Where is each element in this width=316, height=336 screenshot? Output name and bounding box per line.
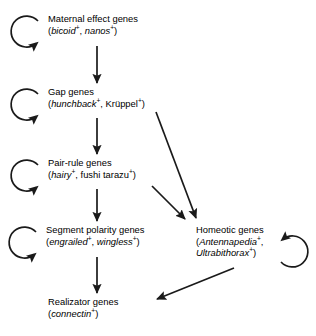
node-segment-polarity-genes: Segment polarity genes (engrailed+, wing… — [46, 224, 145, 247]
gene-antennapedia: Antennapedia — [199, 236, 257, 247]
gene-kruppel: Krüppel — [106, 98, 138, 109]
node-homeotic-genes-line1: (Antennapedia+, — [196, 236, 264, 248]
self-loop-maternal — [11, 16, 38, 47]
node-gap-genes-list: (hunchback+, Krüppel+) — [48, 98, 145, 110]
node-maternal-effect-genes: Maternal effect genes (bicoid+, nanos+) — [48, 13, 138, 36]
self-loop-pair-rule — [11, 160, 38, 191]
gene-nanos: nanos — [85, 25, 111, 36]
node-pair-rule-genes-list: (hairy+, fushi tarazu+) — [48, 169, 136, 181]
node-realizator-title: Realizator genes — [48, 296, 118, 308]
node-homeotic-title: Homeotic genes — [196, 224, 264, 236]
arrow-homeotic-to-realizator — [157, 268, 234, 299]
gene-ultrabithorax: Ultrabithorax — [196, 247, 249, 258]
diagram-canvas: Maternal effect genes (bicoid+, nanos+) … — [0, 0, 316, 336]
gene-fushi-tarazu: fushi tarazu — [81, 169, 129, 180]
node-homeotic-genes: Homeotic genes (Antennapedia+, Ultrabith… — [196, 224, 264, 259]
node-homeotic-genes-line2: Ultrabithorax+) — [196, 247, 264, 259]
node-maternal-title: Maternal effect genes — [48, 13, 138, 25]
node-segment-polarity-title: Segment polarity genes — [46, 224, 145, 236]
node-maternal-genes: (bicoid+, nanos+) — [48, 25, 138, 37]
gene-engrailed: engrailed — [49, 236, 88, 247]
node-pair-rule-genes: Pair-rule genes (hairy+, fushi tarazu+) — [48, 157, 136, 180]
self-loop-segment-polarity — [9, 227, 36, 258]
node-pair-rule-title: Pair-rule genes — [48, 157, 136, 169]
self-loop-homeotic — [281, 236, 308, 267]
gene-hunchback: hunchback — [51, 98, 96, 109]
gene-connectin: connectin — [51, 308, 91, 319]
arrow-gap-to-homeotic — [156, 112, 196, 218]
node-segment-polarity-genes-list: (engrailed+, wingless+) — [46, 236, 145, 248]
gene-hairy: hairy — [51, 169, 71, 180]
gene-wingless: wingless — [97, 236, 133, 247]
arrow-pair-rule-to-homeotic — [152, 186, 185, 219]
self-loop-gap — [11, 89, 38, 120]
gene-bicoid: bicoid — [51, 25, 76, 36]
node-realizator-genes-list: (connectin+) — [48, 308, 118, 320]
node-realizator-genes: Realizator genes (connectin+) — [48, 296, 118, 319]
node-gap-genes: Gap genes (hunchback+, Krüppel+) — [48, 86, 145, 109]
